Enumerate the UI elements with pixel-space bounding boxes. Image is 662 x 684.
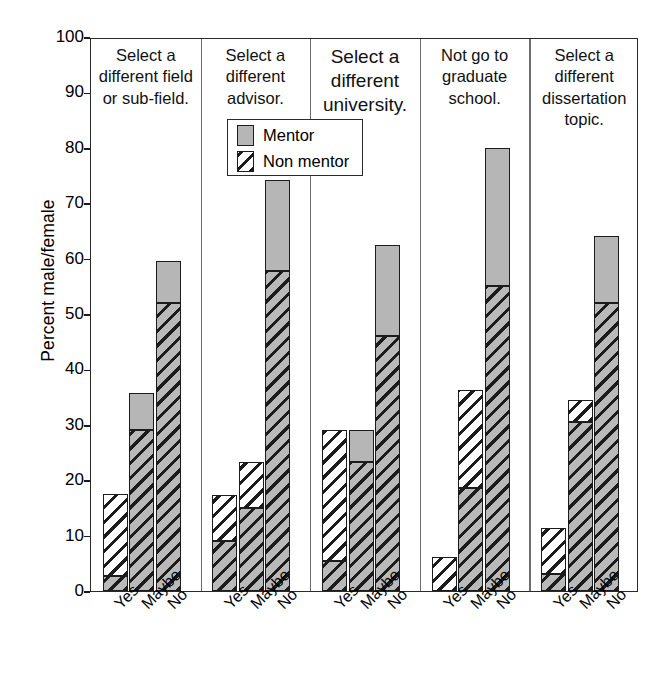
bar-segment-non-mentor [239,508,264,591]
legend-label-mentor: Mentor [263,126,314,145]
bar-segment-mentor [594,236,619,302]
bar-yes [103,494,128,591]
legend-item-mentor: Mentor [237,124,314,146]
bar-no [485,148,510,591]
panel-divider [529,39,530,591]
y-tick-value: 0 [46,582,84,599]
bar-segment-mentor [129,393,154,431]
bar-segment-non-mentor [239,462,264,508]
bar-yes [541,528,566,591]
y-tick-value: 40 [46,360,84,377]
bar-no [265,180,290,591]
bar-no [594,236,619,591]
bar-segment-non-mentor [129,430,154,591]
bar-segment-non-mentor [156,303,181,591]
bar-yes [212,495,237,591]
bar-segment-non-mentor [458,390,483,488]
bar-maybe [239,462,264,591]
y-tick-value: 50 [46,305,84,322]
bar-segment-non-mentor [541,528,566,574]
bar-segment-non-mentor [375,336,400,591]
bar-segment-mentor [265,180,290,271]
non-mentor-swatch-icon [237,151,254,172]
legend-label-non-mentor: Non mentor [263,152,349,171]
panel-title: Not go to graduate school. [425,45,525,109]
bar-segment-non-mentor [212,541,237,591]
bar-segment-mentor [349,430,374,462]
bar-segment-non-mentor [485,286,510,591]
plot-area: Select a different field or sub-field.Se… [90,38,638,592]
bar-maybe [458,390,483,591]
panel-title: Select a different university. [315,45,415,117]
legend: Mentor Non mentor [227,119,363,176]
bar-segment-non-mentor [594,303,619,591]
bar-maybe [349,430,374,591]
bar-segment-non-mentor [265,271,290,591]
bar-maybe [568,400,593,591]
bar-segment-non-mentor [103,494,128,575]
y-tick-value: 100 [46,28,84,45]
chart-figure: Percent male/female 01020304050607080901… [0,0,662,684]
y-tick-value: 20 [46,471,84,488]
panel-title: Select a different field or sub-field. [96,45,196,109]
y-tick-value: 60 [46,250,84,267]
bar-no [375,245,400,591]
y-tick-value: 30 [46,416,84,433]
bar-segment-non-mentor [212,495,237,541]
bar-segment-non-mentor [568,400,593,422]
bar-segment-non-mentor [349,462,374,591]
bar-segment-mentor [375,245,400,336]
panel-title: Select a different dissertation topic. [534,45,634,131]
y-tick-value: 10 [46,527,84,544]
bar-segment-mentor [156,261,181,303]
panel-divider [420,39,421,591]
panel-title: Select a different advisor. [206,45,306,109]
bar-segment-mentor [485,148,510,287]
bar-segment-non-mentor [458,488,483,591]
mentor-swatch-icon [237,125,254,146]
y-tick-value: 80 [46,139,84,156]
bar-no [156,261,181,591]
bar-yes [322,430,347,591]
panel-divider [201,39,202,591]
y-tick-value: 70 [46,194,84,211]
bar-segment-non-mentor [568,422,593,591]
y-tick-value: 90 [46,83,84,100]
legend-item-non-mentor: Non mentor [237,150,349,172]
bar-maybe [129,393,154,591]
bar-segment-non-mentor [322,430,347,560]
